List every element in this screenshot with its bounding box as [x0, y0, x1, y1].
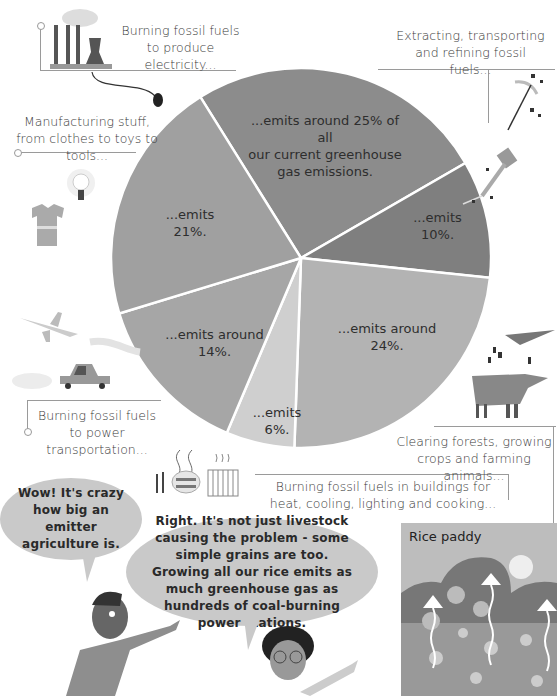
- slice-label-transportation: ...emits around 14%.: [152, 326, 277, 360]
- slice-label-electricity: ...emits around 25% of all our current g…: [245, 112, 405, 180]
- rice-paddy-title: Rice paddy: [409, 529, 481, 544]
- speech-bubble-girl: Right. It's not just livestock causing t…: [126, 518, 378, 626]
- bubble-tail: [244, 618, 260, 650]
- leader-agri-h: [434, 426, 556, 427]
- slice-label-manufacturing: ...emits 21%.: [150, 206, 230, 240]
- caption-buildings: Burning fossil fuels in buildings for he…: [258, 478, 508, 512]
- caption-agriculture: Clearing forests, growing crops and farm…: [396, 433, 552, 484]
- rice-paddy-inset: Rice paddy: [401, 523, 557, 696]
- bubble-tail: [82, 552, 97, 582]
- caption-manufacturing: Manufacturing stuff, from clothes to toy…: [8, 113, 166, 164]
- leader-electricity: [40, 26, 41, 70]
- caption-transportation: Burning fossil fuels to power transporta…: [36, 407, 158, 458]
- caption-extracting: Extracting, transporting and refining fo…: [393, 27, 548, 78]
- rice-paddy-illustration: [401, 523, 557, 696]
- speech-bubble-boy: Wow! It's crazy how big an emitter agric…: [0, 478, 142, 560]
- leader-dot: [24, 428, 32, 436]
- leader-rice-v: [553, 426, 554, 526]
- slice-label-buildings: ...emits 6%.: [252, 404, 302, 438]
- slice-label-agriculture: ...emits around 24%.: [322, 320, 452, 354]
- slice-label-extracting: ...emits 10%.: [395, 209, 480, 243]
- leader-dot: [37, 22, 45, 30]
- caption-electricity: Burning fossil fuels to produce electric…: [118, 22, 243, 73]
- leader-transport-h: [27, 400, 161, 401]
- leader-transport-v: [27, 400, 28, 430]
